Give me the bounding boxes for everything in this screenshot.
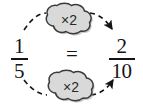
right-fraction-numerator: 2 xyxy=(105,36,138,57)
dashed-path-bottom-left xyxy=(24,80,47,95)
left-fraction: 1 5 xyxy=(6,36,32,82)
equivalent-fractions-figure: 1 5 = 2 10 ×2 ×2 xyxy=(0,0,143,109)
cloud-bottom-operation-label: ×2 xyxy=(52,80,90,94)
left-fraction-denominator: 5 xyxy=(6,61,32,82)
equals-sign: = xyxy=(57,44,87,65)
dashed-arrow-top-right xyxy=(90,13,112,29)
left-fraction-numerator: 1 xyxy=(6,36,32,57)
cloud-top-operation-label: ×2 xyxy=(50,13,88,27)
right-fraction-denominator: 10 xyxy=(105,61,138,82)
dashed-path-top-left xyxy=(24,13,46,30)
right-fraction: 2 10 xyxy=(105,36,138,82)
